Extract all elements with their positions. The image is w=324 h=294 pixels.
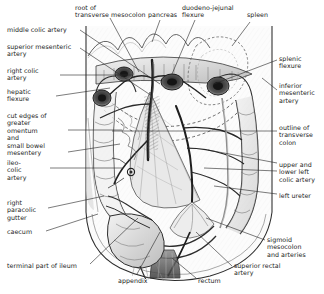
label-ileo-colic-artery: ileo- colic artery xyxy=(7,159,26,181)
label-sigmoid-mesocolon-and-arteries: sigmoid mesocolon and arteries xyxy=(267,236,306,258)
label-upper-and-lower-left-colic-artery: upper and lower left colic artery xyxy=(279,161,315,183)
label-outline-of-transverse-colon: outline of transverse colon xyxy=(279,124,313,146)
label-left-ureter: left ureter xyxy=(279,192,311,199)
label-right-colic-artery: right colic artery xyxy=(7,67,39,82)
label-hepatic-flexure: hepatic flexure xyxy=(7,88,31,103)
anatomical-figure: root of transverse mesocolonpancreasduod… xyxy=(0,0,324,294)
label-rectum: rectum xyxy=(198,277,221,284)
label-inferior-mesenteric-artery: inferior mesenteric artery xyxy=(279,82,315,104)
label-splenic-flexure: splenic flexure xyxy=(279,55,301,70)
label-root-of-transverse-mesocolon: root of transverse mesocolon xyxy=(75,4,146,19)
label-right-paracolic-gutter: right paracolic gutter xyxy=(7,199,36,221)
duodeno-jejunal-flexure xyxy=(161,74,183,90)
label-middle-colic-artery: middle colic artery xyxy=(7,26,67,33)
label-terminal-part-of-ileum: terminal part of ileum xyxy=(7,262,77,269)
label-duodeno-jejunal-flexure: duodeno-jejunal flexure xyxy=(182,4,234,19)
label-appendix: appendix xyxy=(118,277,148,284)
label-caecum: caecum xyxy=(7,228,32,235)
label-spleen: spleen xyxy=(247,11,268,18)
label-superior-rectal-artery: superior rectal artery xyxy=(234,262,281,277)
label-cut-edges-of-greater-omentum-and-small-bowel-mesentery: cut edges of greater omentum and small b… xyxy=(7,112,47,156)
label-pancreas: pancreas xyxy=(148,11,177,18)
label-superior-mesenteric-artery: superior mesenteric artery xyxy=(7,43,71,58)
